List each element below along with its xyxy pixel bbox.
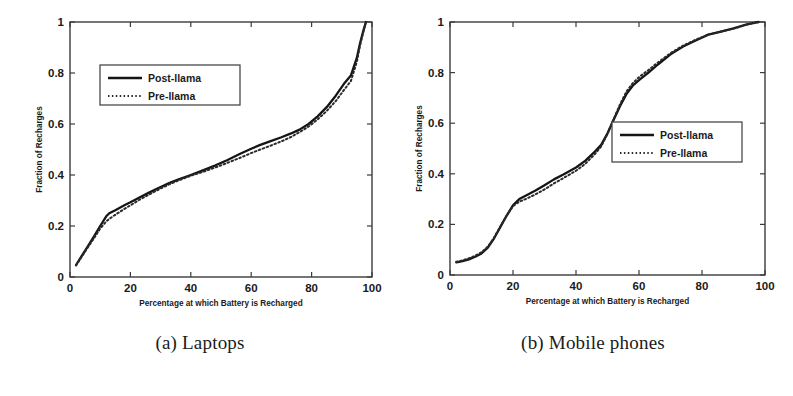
x-tick-label: 40 xyxy=(184,282,197,294)
x-tick-label: 100 xyxy=(362,282,381,294)
figure-container: 02040608010000.20.40.60.81Percentage at … xyxy=(0,0,793,396)
x-tick-label: 80 xyxy=(696,280,709,292)
legend-label-pre-llama: Pre-llama xyxy=(148,90,195,102)
x-axis-title: Percentage at which Battery is Recharged xyxy=(526,297,689,306)
legend-label-post-llama: Post-llama xyxy=(148,72,201,84)
y-tick-label: 0.4 xyxy=(48,169,65,181)
y-tick-label: 0.6 xyxy=(48,118,64,130)
legend: Post-llamaPre-llama xyxy=(100,65,240,105)
x-tick-label: 40 xyxy=(570,280,583,292)
series-post-llama xyxy=(76,22,366,265)
panel-laptops: 02040608010000.20.40.60.81Percentage at … xyxy=(0,0,400,396)
caption-mobile-phones: (b) Mobile phones xyxy=(393,332,793,354)
y-tick-label: 0.2 xyxy=(48,220,64,232)
x-axis-title: Percentage at which Battery is Recharged xyxy=(139,299,302,308)
x-tick-label: 0 xyxy=(67,282,73,294)
y-tick-label: 0.4 xyxy=(428,168,445,180)
x-tick-label: 20 xyxy=(124,282,137,294)
y-tick-label: 0.2 xyxy=(428,218,444,230)
caption-laptops: (a) Laptops xyxy=(0,332,400,354)
legend-label-post-llama: Post-llama xyxy=(660,129,713,141)
y-tick-label: 0.8 xyxy=(428,67,445,79)
legend-label-pre-llama: Pre-llama xyxy=(660,147,707,159)
x-tick-label: 60 xyxy=(245,282,258,294)
series-pre-llama xyxy=(76,22,366,266)
x-tick-label: 80 xyxy=(305,282,318,294)
plot-frame xyxy=(70,22,372,277)
y-axis-title: Fraction of Recharges xyxy=(35,106,44,193)
legend: Post-llamaPre-llama xyxy=(612,122,742,162)
chart-mobile-phones: 02040608010000.20.40.60.81Percentage at … xyxy=(393,0,793,330)
x-tick-label: 60 xyxy=(633,280,646,292)
x-tick-label: 20 xyxy=(507,280,520,292)
y-tick-label: 0.6 xyxy=(428,117,444,129)
y-tick-label: 1 xyxy=(58,16,65,28)
panel-mobile-phones: 02040608010000.20.40.60.81Percentage at … xyxy=(393,0,793,396)
x-tick-label: 100 xyxy=(755,280,774,292)
x-tick-label: 0 xyxy=(447,280,453,292)
y-tick-label: 1 xyxy=(438,16,445,28)
y-tick-label: 0 xyxy=(58,271,64,283)
y-tick-label: 0.8 xyxy=(48,67,65,79)
y-axis-title: Fraction of Recharges xyxy=(415,105,424,192)
y-tick-label: 0 xyxy=(438,269,444,281)
chart-laptops: 02040608010000.20.40.60.81Percentage at … xyxy=(0,0,400,330)
